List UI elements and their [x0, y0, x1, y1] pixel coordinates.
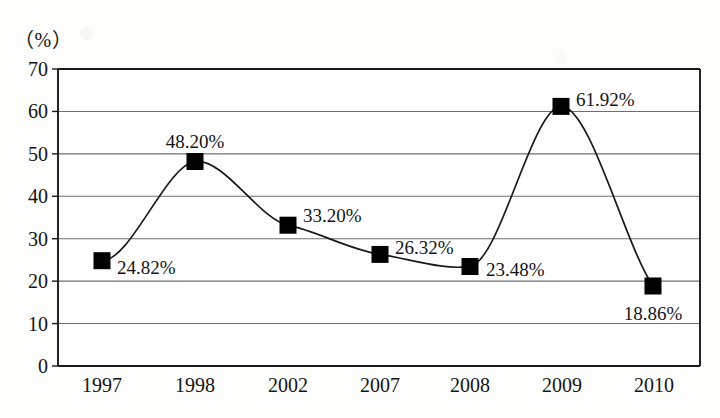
- data-label-1998: 48.20%: [166, 131, 225, 152]
- data-point-marker-1997[interactable]: [94, 252, 111, 269]
- data-point-marker-1998[interactable]: [187, 153, 204, 170]
- xtick-label-2007: 2007: [360, 374, 400, 396]
- data-label-2008: 23.48%: [486, 259, 545, 280]
- line-chart: 70 60 50 40 30 20 10 0 24.82% 48.20% 33.…: [0, 0, 720, 418]
- data-point-marker-2002[interactable]: [280, 217, 297, 234]
- data-point-marker-2008[interactable]: [462, 258, 479, 275]
- data-label-1997: 24.82%: [117, 257, 176, 278]
- ytick-label-10: 10: [28, 313, 48, 335]
- data-label-2010: 18.86%: [624, 303, 683, 324]
- ytick-label-70: 70: [28, 58, 48, 80]
- data-label-2007: 26.32%: [395, 237, 454, 258]
- y-axis-tick-labels: 70 60 50 40 30 20 10 0: [28, 58, 48, 377]
- chart-page: （%）: [0, 0, 720, 418]
- xtick-label-1998: 1998: [175, 374, 215, 396]
- x-axis-tick-labels: 1997 1998 2002 2007 2008 2009 2010: [82, 374, 674, 396]
- data-label-2002: 33.20%: [303, 205, 362, 226]
- data-point-marker-2007[interactable]: [372, 246, 389, 263]
- xtick-label-1997: 1997: [82, 374, 122, 396]
- ytick-label-60: 60: [28, 100, 48, 122]
- xtick-label-2009: 2009: [542, 374, 582, 396]
- data-point-marker-2009[interactable]: [553, 98, 570, 115]
- ytick-label-30: 30: [28, 228, 48, 250]
- data-label-2009: 61.92%: [576, 89, 635, 110]
- xtick-label-2002: 2002: [268, 374, 308, 396]
- ytick-label-0: 0: [38, 355, 48, 377]
- data-point-marker-2010[interactable]: [645, 278, 662, 295]
- xtick-label-2008: 2008: [450, 374, 490, 396]
- ytick-label-50: 50: [28, 143, 48, 165]
- ytick-label-40: 40: [28, 185, 48, 207]
- ytick-label-20: 20: [28, 270, 48, 292]
- xtick-label-2010: 2010: [634, 374, 674, 396]
- plot-area-background: [58, 69, 700, 366]
